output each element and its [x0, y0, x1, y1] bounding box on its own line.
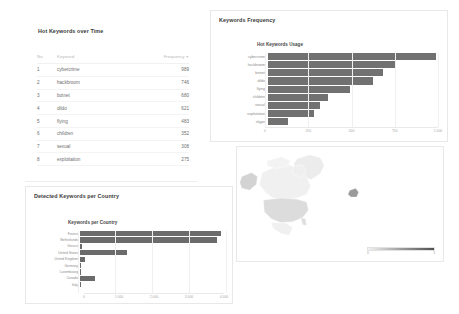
column-header-no[interactable]: No [37, 52, 57, 64]
chart-gridline [265, 53, 266, 127]
bar-fill[interactable] [268, 118, 288, 125]
bar-fill[interactable] [80, 269, 81, 274]
bar-track [268, 118, 439, 125]
table-header-row: No Keyword Frequency▼ [37, 52, 189, 64]
bar-track [80, 250, 226, 255]
bar-category-label: sexual [233, 103, 268, 107]
bar-fill[interactable] [80, 237, 217, 242]
keywords-per-country-bar-chart: FranceNetherlandsGreeceUnited StatesUnit… [40, 231, 226, 293]
keywords-geographic-map-panel[interactable]: 0 3 [236, 146, 444, 262]
bar-row: skype [233, 118, 438, 125]
axis-tick-label: 1 000 [115, 295, 124, 299]
cell-frequency: 621 [143, 102, 189, 115]
bar-fill[interactable] [80, 250, 127, 255]
bar-track [80, 257, 226, 262]
cell-keyword: exploitation [57, 153, 143, 166]
table-row[interactable]: 1cybercrime989 [37, 64, 189, 77]
bar-row: sexual [233, 102, 438, 109]
bar-row: Luxembourg [40, 269, 226, 274]
cell-no: 8 [37, 153, 57, 166]
map-region-iceland[interactable] [348, 188, 359, 197]
axis-tick-label: 3 000 [185, 295, 194, 299]
bar-category-label: exploitation [233, 112, 268, 116]
bar-category-label: France [40, 232, 80, 236]
country-chart-x-axis [84, 293, 224, 294]
bar-track [268, 102, 439, 109]
bar-row: exploitation [233, 110, 438, 117]
cell-keyword: botnet [57, 89, 143, 102]
table-row[interactable]: 8exploitation275 [37, 153, 189, 166]
bar-track [80, 269, 226, 274]
frequency-chart-x-axis [265, 127, 438, 128]
bar-category-label: United States [40, 251, 80, 255]
chart-gridline [352, 53, 353, 127]
bar-track [268, 77, 439, 84]
table-row[interactable]: 7sexual308 [37, 140, 189, 153]
chart-title-hot-keywords-usage: Hot Keywords Usage [257, 42, 303, 47]
map-legend-max-label: 3 [433, 251, 435, 255]
bar-category-label: botnet [233, 71, 268, 75]
panel-title-hot-keywords-over-time: Hot Keywords over Time [38, 28, 103, 34]
bar-category-label: cybercrime [233, 55, 268, 59]
bar-fill[interactable] [268, 61, 395, 68]
map-region-alaska[interactable] [240, 173, 258, 191]
bar-fill[interactable] [268, 94, 328, 101]
map-color-legend: 0 3 [367, 247, 435, 255]
table-row[interactable]: 3botnet680 [37, 89, 189, 102]
cell-no: 5 [37, 115, 57, 128]
cell-frequency: 308 [143, 140, 189, 153]
cell-keyword: children [57, 127, 143, 140]
bar-category-label: hackbroom [233, 63, 268, 67]
bar-fill[interactable] [268, 69, 384, 76]
detected-keywords-per-country-panel: Detected Keywords per Country Keywords p… [25, 186, 233, 304]
table-row[interactable]: 4dildo621 [37, 102, 189, 115]
bar-row: botnet [233, 69, 438, 76]
chart-gridline [395, 53, 396, 127]
bar-row: Italy [40, 282, 226, 287]
bar-category-label: Luxembourg [40, 270, 80, 274]
sort-descending-icon: ▼ [185, 55, 189, 59]
keywords-frequency-panel: Keywords Frequency Hot Keywords Usage cy… [210, 10, 448, 142]
bar-row: United States [40, 250, 226, 255]
bar-category-label: flying [233, 87, 268, 91]
bar-track [268, 69, 439, 76]
chart-gridline [78, 231, 79, 293]
bar-fill[interactable] [80, 257, 85, 262]
cell-no: 4 [37, 102, 57, 115]
bar-category-label: Canada [40, 276, 80, 280]
chart-gridline [189, 231, 190, 293]
bar-fill[interactable] [268, 102, 321, 109]
hot-keywords-table: No Keyword Frequency▼ 1cybercrime9892hac… [37, 52, 189, 166]
table-row[interactable]: 6children352 [37, 127, 189, 140]
bar-row: flying [233, 86, 438, 93]
table-row[interactable]: 2hackbroom746 [37, 76, 189, 89]
bar-track [268, 53, 439, 60]
chart-gridline [115, 231, 116, 293]
cell-keyword: sexual [57, 140, 143, 153]
bar-fill[interactable] [80, 276, 95, 281]
cell-no: 6 [37, 127, 57, 140]
bar-fill[interactable] [80, 231, 221, 236]
column-header-frequency[interactable]: Frequency▼ [143, 52, 189, 64]
column-header-keyword[interactable]: Keyword [57, 52, 143, 64]
cell-frequency: 275 [143, 153, 189, 166]
bar-category-label: United Kingdom [40, 257, 80, 261]
bar-track [268, 94, 439, 101]
bar-row: children [233, 94, 438, 101]
bar-category-label: skype [233, 120, 268, 124]
map-region-mexico[interactable] [271, 223, 293, 236]
bar-track [268, 86, 439, 93]
bar-fill[interactable] [80, 263, 81, 268]
north-america-choropleth-map[interactable] [237, 147, 443, 261]
axis-tick-label: 250 [305, 129, 311, 133]
cell-no: 2 [37, 76, 57, 89]
cell-keyword: hackbroom [57, 76, 143, 89]
bar-fill[interactable] [268, 77, 374, 84]
bar-track [268, 61, 439, 68]
table-row[interactable]: 5flying483 [37, 115, 189, 128]
bar-track [80, 276, 226, 281]
cell-frequency: 746 [143, 76, 189, 89]
axis-tick-label: 750 [392, 129, 398, 133]
bar-fill[interactable] [80, 244, 82, 249]
map-region-florida[interactable] [301, 218, 307, 226]
